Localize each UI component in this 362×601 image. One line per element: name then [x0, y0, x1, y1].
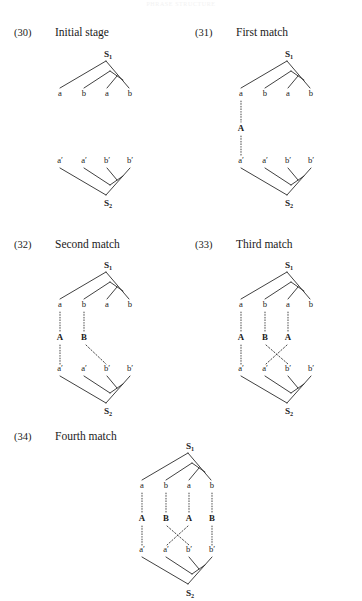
upper-leaf-3: a: [105, 88, 109, 98]
lower-leaf-1: a′: [238, 363, 244, 373]
s1-root-label: S1: [104, 49, 112, 60]
lower-leaf-2: a′: [81, 155, 87, 165]
lower-leaf-3: b′: [104, 363, 110, 373]
mediator-B-1: B: [262, 332, 268, 342]
lower-leaf-1: a′: [238, 155, 244, 165]
s2-root-label: S2: [285, 198, 293, 209]
upper-leaf-2: b: [164, 480, 168, 490]
lower-leaf-3: b′: [285, 155, 291, 165]
upper-leaf-1: a: [140, 480, 144, 490]
upper-tree-branches: [60, 272, 129, 299]
upper-leaf-1: a: [239, 88, 243, 98]
s1-root-label: S1: [285, 49, 293, 60]
figure-page: PHRASE STRUCTURE (30) Initial stage S1 a…: [0, 0, 362, 601]
mediator-B-1: B: [81, 332, 87, 342]
upper-leaf-4: b: [210, 480, 214, 490]
upper-leaf-2: b: [263, 299, 267, 309]
mediator-A-1: A: [238, 123, 245, 133]
example-34-diagram: S1 a b a b A B A B: [92, 425, 292, 601]
upper-tree-branches: [60, 61, 129, 88]
example-30-diagram: S1 a b a b a′ a′ b′ b′: [0, 0, 180, 215]
mediator-A-1: A: [238, 332, 245, 342]
upper-leaf-1: a: [58, 299, 62, 309]
s2-root-label: S2: [104, 406, 112, 417]
upper-leaf-4: b: [309, 88, 313, 98]
upper-leaf-3: a: [286, 299, 290, 309]
lower-tree-branches: [60, 376, 130, 403]
lower-leaf-1: a′: [57, 155, 63, 165]
lower-leaf-1: a′: [57, 363, 63, 373]
s2-root-label: S2: [285, 406, 293, 417]
lower-leaf-2: a′: [81, 363, 87, 373]
s2-root-label: S2: [186, 588, 194, 599]
upper-leaf-4: b: [128, 299, 132, 309]
upper-leaf-2: b: [82, 299, 86, 309]
lower-leaf-4: b′: [308, 363, 314, 373]
lower-leaf-2: a′: [163, 544, 169, 554]
upper-leaf-2: b: [263, 88, 267, 98]
s1-root-label: S1: [186, 441, 194, 452]
upper-leaf-4: b: [309, 299, 313, 309]
upper-leaf-3: a: [187, 480, 191, 490]
lower-leaf-4: b′: [127, 155, 133, 165]
lower-tree-branches: [142, 557, 212, 584]
mediator-B-1: B: [163, 513, 169, 523]
s2-root-label: S2: [104, 198, 112, 209]
upper-leaf-4: b: [128, 88, 132, 98]
upper-tree-branches: [241, 272, 310, 299]
lower-leaf-2: a′: [262, 155, 268, 165]
lower-tree-branches: [241, 168, 311, 195]
upper-leaf-1: a: [58, 88, 62, 98]
example-33-diagram: S1 a b a b A B A: [181, 218, 361, 424]
lower-tree-branches: [60, 168, 130, 195]
lower-leaf-3: b′: [186, 544, 192, 554]
example-32-diagram: S1 a b a b A B a′ a′: [0, 218, 180, 424]
lower-leaf-4: b′: [209, 544, 215, 554]
link-B-to-bprime: [86, 345, 106, 364]
s1-root-label: S1: [285, 260, 293, 271]
lower-leaf-1: a′: [139, 544, 145, 554]
upper-leaf-3: a: [105, 299, 109, 309]
s1-root-label: S1: [104, 260, 112, 271]
mediator-A-1: A: [57, 332, 64, 342]
example-34-number: (34): [14, 432, 32, 443]
lower-tree-branches: [241, 376, 311, 403]
lower-leaf-4: b′: [308, 155, 314, 165]
lower-leaf-2: a′: [262, 363, 268, 373]
lower-leaf-3: b′: [104, 155, 110, 165]
mediator-A-1: A: [139, 513, 146, 523]
lower-leaf-4: b′: [127, 363, 133, 373]
upper-leaf-1: a: [239, 299, 243, 309]
upper-leaf-3: a: [286, 88, 290, 98]
lower-leaf-3: b′: [285, 363, 291, 373]
upper-tree-branches: [142, 453, 211, 480]
upper-tree-branches: [241, 61, 310, 88]
example-31-diagram: S1 a b a b A a′ a′ b′ b′: [181, 0, 361, 215]
mediator-A-2: A: [285, 332, 292, 342]
upper-leaf-2: b: [82, 88, 86, 98]
mediator-B-2: B: [209, 513, 215, 523]
mediator-A-2: A: [186, 513, 193, 523]
